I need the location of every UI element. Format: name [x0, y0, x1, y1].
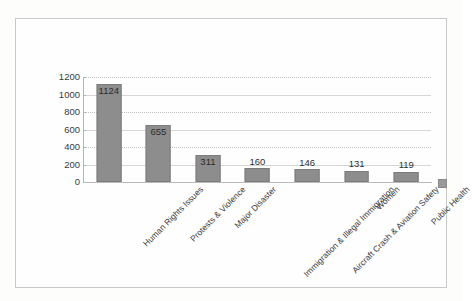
y-axis-tick-mark [83, 182, 86, 183]
x-axis-category-label: Aircraft Crash & Aviation Safety [351, 185, 441, 275]
x-axis-labels: Human Rights IssuesProtests & ViolenceMa… [84, 185, 431, 301]
bar[interactable] [96, 84, 121, 182]
bar-slot: 655 [134, 77, 184, 182]
y-axis: 120010008006004002000 [40, 19, 80, 287]
bar[interactable] [295, 169, 320, 182]
bar-slot: 131 [332, 77, 382, 182]
y-axis-tick-label: 1000 [44, 90, 80, 100]
y-axis-tick-mark [83, 165, 86, 166]
bar-slot: 1124 [84, 77, 134, 182]
y-axis-tick-mark [83, 95, 86, 96]
bar-value-label: 146 [299, 158, 315, 168]
bar-slot: 146 [282, 77, 332, 182]
bar-slot: 311 [183, 77, 233, 182]
bar-value-label: 131 [349, 159, 365, 169]
y-axis-tick-label: 600 [44, 125, 80, 135]
y-axis-tick-mark [83, 77, 86, 78]
bar[interactable] [394, 172, 419, 182]
y-axis-tick-label: 200 [44, 160, 80, 170]
y-axis-tick-label: 0 [44, 177, 80, 187]
chart-frame: 120010008006004002000 112465531116014613… [15, 18, 447, 288]
y-axis-tick-mark [83, 147, 86, 148]
plot-area: 1124655311160146131119 [84, 77, 431, 182]
legend-swatch [438, 179, 447, 188]
gridline [84, 182, 431, 183]
y-axis-tick-label: 800 [44, 107, 80, 117]
bar-value-label: 311 [200, 157, 215, 167]
bar-value-label: 119 [399, 160, 414, 170]
y-axis-tick-label: 400 [44, 142, 80, 152]
y-axis-tick-label: 1200 [44, 72, 80, 82]
bar-value-label: 1124 [99, 86, 119, 96]
bar[interactable] [245, 168, 270, 182]
bar[interactable] [344, 171, 369, 182]
y-axis-tick-mark [83, 112, 86, 113]
bar-slot: 119 [381, 77, 431, 182]
bar-value-label: 655 [150, 127, 166, 137]
bar-slot: 160 [233, 77, 283, 182]
bar-value-label: 160 [250, 157, 266, 167]
y-axis-tick-mark [83, 130, 86, 131]
